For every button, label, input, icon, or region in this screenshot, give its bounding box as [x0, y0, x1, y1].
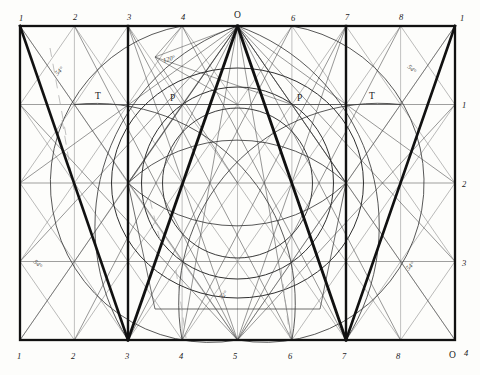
- top-label-7: 7: [345, 13, 349, 22]
- point-label-T-left: T: [95, 92, 101, 102]
- bottom-label-1: 1: [17, 352, 21, 361]
- bottom-label-5: 5: [233, 352, 237, 361]
- construction-drawing: [0, 0, 480, 375]
- compass-arcs: [50, 26, 424, 342]
- bottom-label-6: 6: [288, 352, 292, 361]
- point-label-T-right: T: [369, 92, 375, 102]
- bottom-label-7: 7: [342, 352, 346, 361]
- top-label-right: 1: [460, 14, 464, 23]
- right-label-1: 1: [462, 101, 466, 110]
- bottom-label-3: 3: [125, 352, 129, 361]
- bottom-label-4-right: 4: [464, 349, 468, 358]
- top-label-8: 8: [399, 13, 403, 22]
- figure-plate: 1 2 3 4 O 6 7 8 1 1 2 3 4 5 6 7 8 O 4 1 …: [0, 0, 480, 375]
- top-label-1: 1: [19, 14, 23, 23]
- top-label-O: O: [234, 11, 241, 21]
- bottom-label-2: 2: [71, 352, 75, 361]
- point-label-P-left: P: [170, 94, 175, 104]
- bottom-label-4: 4: [179, 352, 183, 361]
- top-label-2: 2: [73, 13, 77, 22]
- point-label-P-right: P: [297, 94, 302, 104]
- right-label-3: 3: [462, 259, 466, 268]
- bottom-label-O: O: [449, 351, 456, 361]
- bottom-label-8: 8: [396, 352, 400, 361]
- right-label-2: 2: [462, 180, 466, 189]
- top-label-3: 3: [127, 13, 131, 22]
- top-label-4: 4: [181, 13, 185, 22]
- top-label-6: 6: [291, 14, 295, 23]
